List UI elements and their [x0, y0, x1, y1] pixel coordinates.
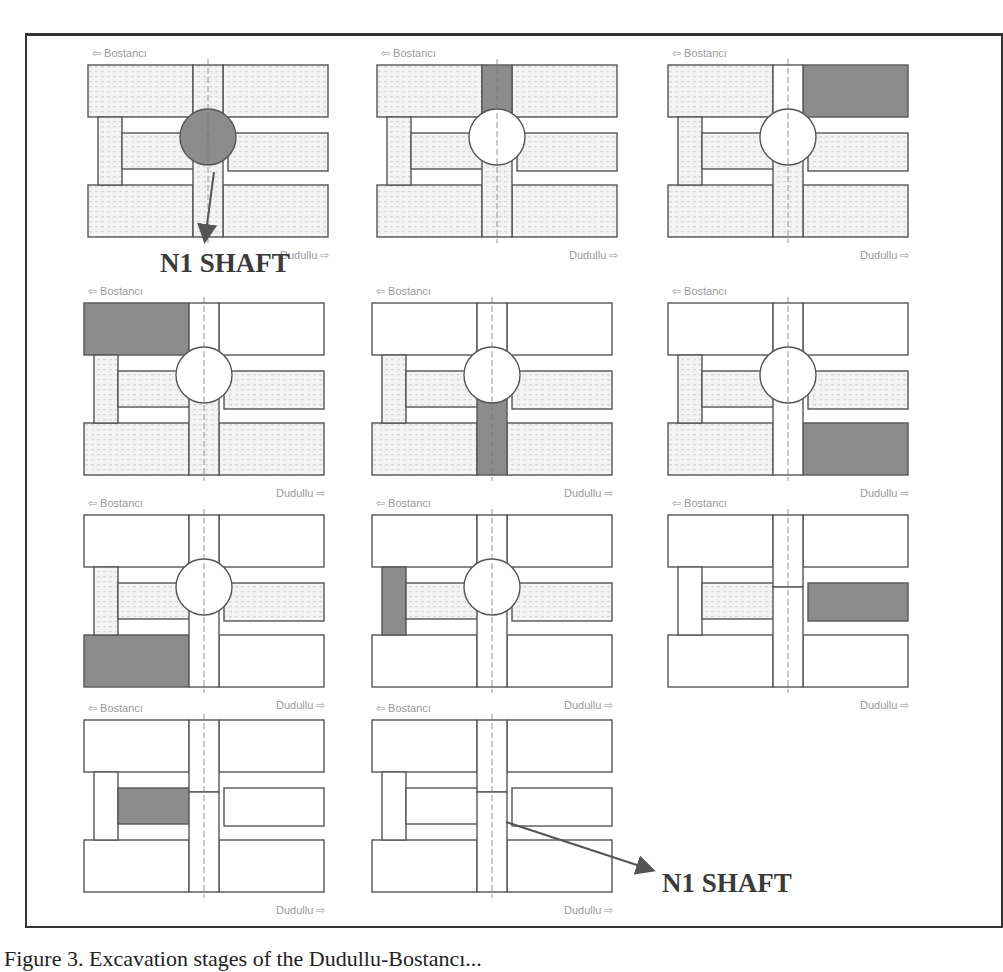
callout-arrow-1	[205, 172, 214, 240]
callout-arrow-2	[506, 822, 652, 870]
figure-caption: Figure 3. Excavation stages of the Dudul…	[4, 946, 482, 972]
n1-shaft-callout-2: N1 SHAFT	[662, 868, 792, 899]
n1-shaft-callout-1: N1 SHAFT	[160, 248, 290, 279]
